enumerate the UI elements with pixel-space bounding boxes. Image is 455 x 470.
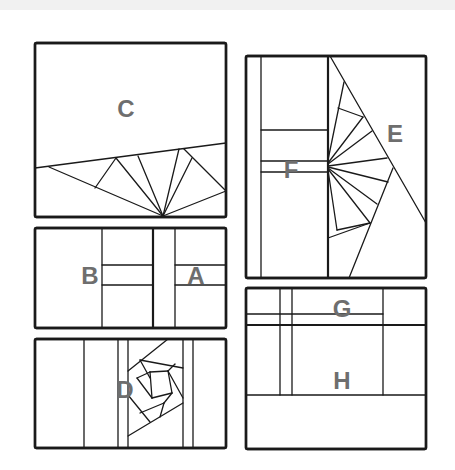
section-label-d: D <box>116 376 133 403</box>
section-label-g: G <box>333 295 352 322</box>
panel-f-e: FE <box>246 56 426 278</box>
panel-d: D <box>35 339 226 448</box>
section-label-b: B <box>81 262 98 289</box>
panel-frame <box>246 56 426 278</box>
panel-g-h: GH <box>246 288 426 449</box>
panel-frame <box>35 43 226 217</box>
section-label-c: C <box>117 95 134 122</box>
section-label-f: F <box>284 156 299 183</box>
quilt-diagram: C BA D FE GH <box>0 0 455 470</box>
section-label-e: E <box>387 120 403 147</box>
panel-b-a: BA <box>35 228 226 328</box>
panel-c: C <box>35 43 226 217</box>
section-label-a: A <box>187 262 204 289</box>
section-label-h: H <box>333 367 350 394</box>
